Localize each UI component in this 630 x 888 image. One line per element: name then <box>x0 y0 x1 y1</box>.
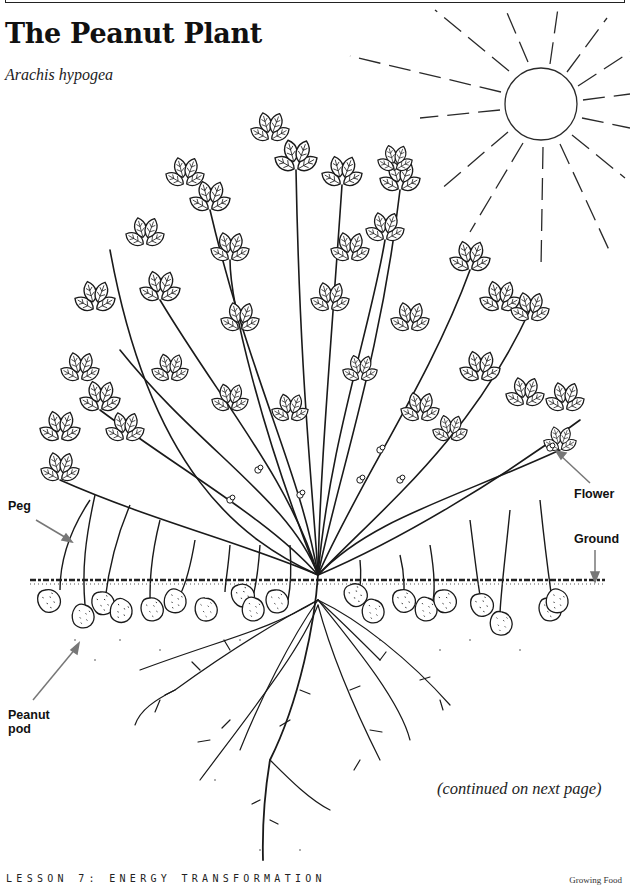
peanut-plant-illustration <box>0 0 630 888</box>
label-ground: Ground <box>574 532 619 546</box>
footer-book-title: Growing Food <box>569 875 622 885</box>
label-flower: Flower <box>574 487 614 501</box>
continued-note: (continued on next page) <box>437 779 601 799</box>
label-peg: Peg <box>8 499 31 513</box>
soil-specks <box>74 639 521 851</box>
label-peanut-pod-line2: pod <box>8 722 31 736</box>
label-peanut-pod: Peanut pod <box>8 708 50 736</box>
label-arrows <box>33 451 599 700</box>
label-peanut-pod-line1: Peanut <box>8 708 50 722</box>
footer-lesson: LESSON 7: ENERGY TRANSFORMATION <box>6 873 326 884</box>
roots <box>135 575 450 860</box>
